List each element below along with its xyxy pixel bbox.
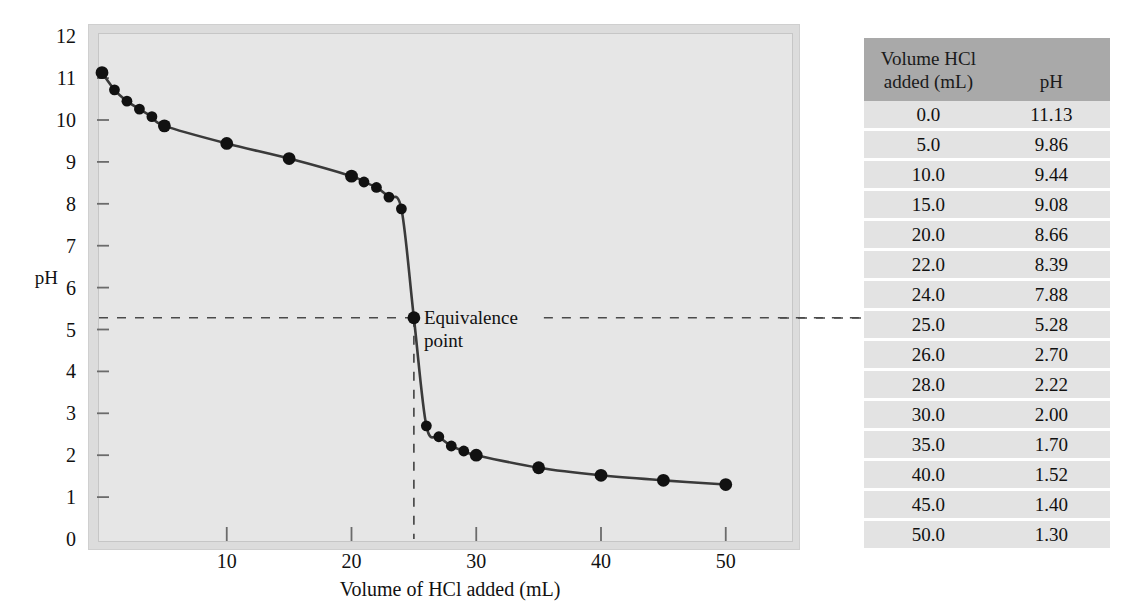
x-axis-tick-label: 40 <box>578 551 624 571</box>
cell-ph: 9.44 <box>993 160 1110 190</box>
cell-volume: 15.0 <box>864 190 993 220</box>
y-axis-tick-label: 5 <box>42 320 76 340</box>
data-point <box>134 104 145 115</box>
cell-ph: 2.22 <box>993 370 1110 400</box>
data-point <box>396 203 407 214</box>
y-axis-tick-label: 10 <box>42 110 76 130</box>
y-axis-tick-label: 1 <box>42 487 76 507</box>
y-axis-tick-label: 9 <box>42 152 76 172</box>
cell-volume: 5.0 <box>864 130 993 160</box>
data-point <box>595 469 608 482</box>
data-point <box>371 182 382 193</box>
y-axis-tick-label: 11 <box>42 68 76 88</box>
data-point <box>345 170 358 183</box>
cell-volume: 10.0 <box>864 160 993 190</box>
y-axis-tick-label: 0 <box>42 529 76 549</box>
cell-volume: 22.0 <box>864 250 993 280</box>
table-row: 50.01.30 <box>864 520 1110 550</box>
data-point <box>407 311 420 324</box>
data-point <box>147 111 158 122</box>
equivalence-label-line2: point <box>424 330 463 351</box>
data-point <box>532 461 545 474</box>
table-row: 30.02.00 <box>864 400 1110 430</box>
y-axis-tick-label: 2 <box>42 445 76 465</box>
table-row: 28.02.22 <box>864 370 1110 400</box>
titration-curve <box>102 73 726 485</box>
axis-ticks <box>97 78 726 541</box>
cell-volume: 20.0 <box>864 220 993 250</box>
y-axis-tick-label: 12 <box>42 26 76 46</box>
x-axis-tick-label: 20 <box>329 551 375 571</box>
cell-volume: 28.0 <box>864 370 993 400</box>
data-point <box>458 446 469 457</box>
table-row: 45.01.40 <box>864 490 1110 520</box>
data-point <box>359 177 370 188</box>
table-row: 26.02.70 <box>864 340 1110 370</box>
data-point <box>719 478 732 491</box>
table-row: 0.011.13 <box>864 101 1110 130</box>
data-point <box>421 420 432 431</box>
cell-volume: 50.0 <box>864 520 993 550</box>
x-axis-title: Volume of HCl added (mL) <box>260 578 640 601</box>
cell-ph: 9.86 <box>993 130 1110 160</box>
data-point <box>470 449 483 462</box>
equivalence-label-line1: Equivalence <box>424 307 518 328</box>
titration-data-table: Volume HCl added (mL) pH 0.011.135.09.86… <box>864 38 1110 551</box>
y-axis-tick-label: 7 <box>42 236 76 256</box>
cell-ph: 8.39 <box>993 250 1110 280</box>
data-point <box>433 431 444 442</box>
cell-ph: 2.70 <box>993 340 1110 370</box>
cell-ph: 11.13 <box>993 101 1110 130</box>
table-row: 24.07.88 <box>864 280 1110 310</box>
cell-volume: 24.0 <box>864 280 993 310</box>
table-row: 40.01.52 <box>864 460 1110 490</box>
table-row: 20.08.66 <box>864 220 1110 250</box>
column-header-volume: Volume HCl added (mL) <box>864 38 993 101</box>
column-header-ph: pH <box>993 38 1110 101</box>
x-axis-tick-label: 30 <box>453 551 499 571</box>
column-header-volume-line2: added (mL) <box>884 71 973 92</box>
data-point <box>384 192 395 203</box>
cell-volume: 0.0 <box>864 101 993 130</box>
titration-curve-figure: 1211109876543210 1020304050 pH Volume of… <box>0 0 1126 614</box>
cell-volume: 40.0 <box>864 460 993 490</box>
cell-volume: 45.0 <box>864 490 993 520</box>
data-point <box>109 84 120 95</box>
cell-ph: 9.08 <box>993 190 1110 220</box>
table-header: Volume HCl added (mL) pH <box>864 38 1110 101</box>
column-header-volume-line1: Volume HCl <box>881 48 976 69</box>
chart-panel: 1211109876543210 1020304050 pH Volume of… <box>0 0 860 614</box>
data-point <box>122 96 133 107</box>
data-point <box>158 119 171 132</box>
data-point <box>283 152 296 165</box>
table-connector-line <box>780 308 1060 328</box>
y-axis-tick-label: 8 <box>42 194 76 214</box>
data-point <box>657 474 670 487</box>
cell-ph: 1.40 <box>993 490 1110 520</box>
equivalence-point-label: Equivalence point <box>424 306 544 352</box>
table-row: 10.09.44 <box>864 160 1110 190</box>
cell-ph: 8.66 <box>993 220 1110 250</box>
cell-volume: 30.0 <box>864 400 993 430</box>
table-row: 22.08.39 <box>864 250 1110 280</box>
cell-volume: 35.0 <box>864 430 993 460</box>
x-axis-tick-label: 50 <box>703 551 749 571</box>
y-axis-tick-label: 3 <box>42 403 76 423</box>
table-row: 5.09.86 <box>864 130 1110 160</box>
x-axis-tick-label: 10 <box>204 551 250 571</box>
data-point <box>96 66 109 79</box>
cell-volume: 26.0 <box>864 340 993 370</box>
cell-ph: 1.30 <box>993 520 1110 550</box>
table-row: 35.01.70 <box>864 430 1110 460</box>
y-axis-tick-label: 4 <box>42 361 76 381</box>
y-axis-title: pH <box>6 267 58 289</box>
data-point <box>220 137 233 150</box>
cell-ph: 7.88 <box>993 280 1110 310</box>
table-header-row: Volume HCl added (mL) pH <box>864 38 1110 101</box>
data-point <box>446 441 457 452</box>
cell-ph: 2.00 <box>993 400 1110 430</box>
table-row: 15.09.08 <box>864 190 1110 220</box>
cell-ph: 1.70 <box>993 430 1110 460</box>
cell-ph: 1.52 <box>993 460 1110 490</box>
